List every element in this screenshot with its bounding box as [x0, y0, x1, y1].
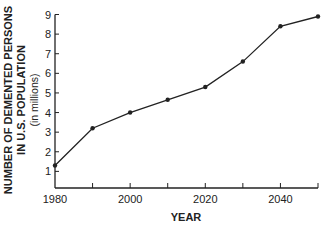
data-point: [53, 163, 57, 167]
y-axis-title: NUMBER OF DEMENTED PERSONSIN U.S. POPULA…: [2, 6, 40, 194]
y-tick-label: 3: [45, 126, 51, 138]
x-tick-label: 2040: [268, 193, 292, 205]
data-point: [316, 14, 320, 18]
data-series: [53, 14, 320, 167]
y-tick-label: 2: [45, 146, 51, 158]
y-tick-label: 7: [45, 48, 51, 60]
y-axis-title-line: IN U.S. POPULATION: [15, 45, 27, 155]
line-chart: NUMBER OF DEMENTED PERSONSIN U.S. POPULA…: [0, 0, 331, 228]
y-tick-label: 6: [45, 67, 51, 79]
y-tick-label: 5: [45, 87, 51, 99]
y-axis-title-line: (in millions): [28, 73, 40, 126]
x-axis-ticks: 1980200020202040: [43, 183, 318, 205]
axes: [55, 15, 318, 189]
x-axis-title: YEAR: [171, 211, 202, 223]
x-tick-label: 2000: [118, 193, 142, 205]
data-point: [241, 59, 245, 63]
data-point: [166, 98, 170, 102]
data-point: [278, 24, 282, 28]
y-tick-label: 1: [45, 165, 51, 177]
x-tick-label: 2020: [193, 193, 217, 205]
y-axis-ticks: 123456789: [45, 9, 59, 178]
data-point: [203, 85, 207, 89]
data-point: [90, 126, 94, 130]
y-axis-title-line: NUMBER OF DEMENTED PERSONS: [2, 6, 14, 194]
y-tick-label: 4: [45, 107, 51, 119]
y-tick-label: 9: [45, 9, 51, 21]
y-tick-label: 8: [45, 28, 51, 40]
series-line: [55, 17, 318, 166]
x-tick-label: 1980: [43, 193, 67, 205]
data-point: [128, 110, 132, 114]
